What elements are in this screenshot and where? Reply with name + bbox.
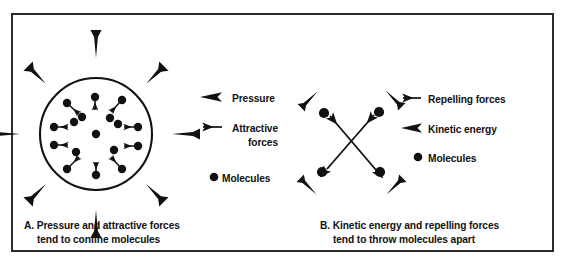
molecule: [319, 108, 329, 118]
molecules-group-a: [50, 93, 142, 179]
legend-label-repelling-forces: Repelling forces: [428, 93, 506, 107]
molecule-with-force: [124, 123, 142, 131]
molecule-with-force: [50, 123, 68, 131]
panel-a-diagram: [0, 30, 200, 238]
legend-label-molecules-b: Molecules: [428, 152, 476, 166]
molecule-with-force: [92, 162, 100, 179]
molecule: [375, 167, 385, 177]
molecule-with-force: [111, 96, 126, 112]
dot-icon: [210, 173, 219, 182]
panel-b-legend-icons: [401, 98, 422, 161]
figure-root: Pressure Attractive forces Molecules Rep…: [0, 0, 569, 267]
molecule: [92, 130, 100, 138]
thick-arrowhead-left-icon: [401, 123, 422, 132]
legend-label-attractive-forces: Attractive forces: [232, 122, 278, 149]
caption-b-line1: B. Kinetic energy and repelling forces: [320, 219, 499, 233]
molecule: [317, 167, 327, 177]
molecule-with-force: [111, 157, 126, 173]
molecule-with-force: [63, 157, 79, 173]
thick-arrowhead-left-icon: [200, 92, 222, 102]
dot-icon: [414, 153, 423, 162]
caption-b-line2: tend to throw molecules apart: [320, 233, 499, 247]
molecule: [78, 113, 86, 121]
molecule: [70, 118, 78, 126]
legend-label-pressure: Pressure: [232, 92, 275, 106]
molecule-with-force: [91, 93, 99, 110]
molecule-with-force: [124, 142, 142, 150]
legend-label-molecules-a: Molecules: [222, 172, 270, 186]
molecule: [114, 120, 122, 128]
caption-a-line1: A. Pressure and attractive forces: [24, 219, 180, 233]
legend-label-attractive-line1: Attractive: [232, 122, 278, 136]
caption-panel-b: B. Kinetic energy and repelling forces t…: [320, 219, 499, 246]
legend-label-kinetic-energy: Kinetic energy: [428, 123, 497, 137]
caption-a-line2: tend to confine molecules: [24, 233, 180, 247]
molecule: [72, 148, 80, 156]
repelling-arrows: [327, 115, 376, 170]
panel-a-legend-icons: [200, 92, 222, 181]
molecule: [110, 146, 118, 154]
molecule-with-force: [50, 141, 68, 149]
molecule-with-force: [63, 99, 79, 114]
molecule: [106, 114, 114, 122]
caption-panel-a: A. Pressure and attractive forces tend t…: [24, 219, 180, 246]
panel-b-diagram: [297, 87, 407, 198]
molecule: [374, 107, 384, 117]
legend-label-attractive-line2: forces: [232, 136, 278, 150]
